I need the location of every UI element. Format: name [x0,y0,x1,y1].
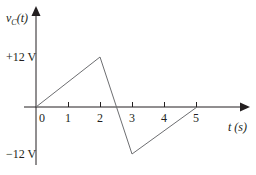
y-axis-arrow-icon [32,6,41,16]
chart: vC(t) +12 V −12 V 0 1 2 3 4 5 t(s) [0,0,256,175]
x-tick-label-2: 2 [97,111,103,125]
x-axis-arrow-icon [240,103,250,112]
x-tick-label-4: 4 [161,111,167,125]
y-axis-label: vC(t) [6,11,28,27]
x-tick-label-0: 0 [39,111,45,125]
x-ticks [69,102,197,107]
x-tick-label-5: 5 [193,111,199,125]
x-tick-label-3: 3 [129,111,135,125]
y-tick-label-neg12: −12 V [6,147,37,161]
waveform-line [36,57,197,154]
x-axis-label: t(s) [228,120,247,134]
y-tick-label-pos12: +12 V [6,50,37,64]
x-tick-label-1: 1 [65,111,71,125]
